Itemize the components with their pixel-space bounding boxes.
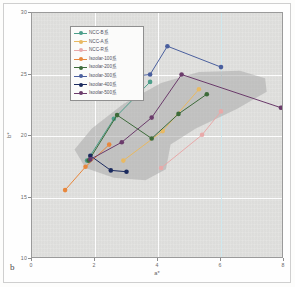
data-point — [148, 80, 153, 85]
legend-item[interactable]: Isoolar-300系 — [73, 72, 141, 81]
x-tick-label: 2 — [92, 262, 95, 268]
data-point — [149, 136, 154, 141]
legend-item-label: Isoolar-300系 — [89, 74, 117, 79]
x-tick-mark — [31, 258, 32, 261]
x-tick-label: 8 — [281, 262, 284, 268]
y-tick-label: 10 — [21, 255, 27, 261]
legend-marker-icon — [79, 57, 83, 61]
legend-marker-icon — [79, 83, 83, 87]
x-tick-label: 0 — [29, 262, 32, 268]
legend-item[interactable]: NCC-R系 — [73, 46, 141, 55]
x-tick-mark — [220, 258, 221, 261]
y-tick-mark — [28, 12, 31, 13]
data-point — [200, 133, 205, 138]
legend-marker-icon — [79, 74, 83, 78]
legend-item[interactable]: Isoolar-500系 — [73, 89, 141, 98]
legend-item-label: NCC-B系 — [89, 31, 109, 36]
y-tick-mark — [28, 135, 31, 136]
data-point — [197, 87, 202, 92]
plot-area — [31, 12, 283, 258]
x-tick-mark — [94, 258, 95, 261]
series-line — [161, 111, 221, 168]
y-tick-label: 20 — [21, 132, 27, 138]
legend-swatch — [74, 56, 87, 63]
legend-marker-icon — [79, 66, 83, 70]
legend: NCC-B系NCC-A系NCC-R系Isoolar-100系Isoolar-20… — [70, 26, 144, 101]
legend-swatch — [74, 30, 87, 37]
legend-marker-icon — [79, 91, 83, 95]
data-point — [165, 44, 170, 49]
legend-item-label: NCC-R系 — [89, 48, 109, 53]
legend-item-label: Isoolar-400系 — [89, 83, 117, 88]
legend-item[interactable]: Isoolar-200系 — [73, 63, 141, 72]
series-NCC-R系 — [159, 109, 224, 170]
legend-item-label: NCC-A系 — [89, 40, 109, 45]
data-point — [176, 112, 181, 117]
data-point — [124, 169, 129, 174]
data-point — [149, 115, 154, 120]
plot-wrapper: 3025201510 02468 b* a* NCC-B系NCC-A系NCC-R… — [31, 12, 283, 258]
legend-swatch — [74, 38, 87, 45]
legend-marker-icon — [79, 31, 83, 35]
y-tick-mark — [28, 197, 31, 198]
data-point — [115, 113, 120, 118]
x-axis-label: a* — [154, 270, 159, 276]
data-point — [219, 65, 224, 70]
legend-item[interactable]: Isoolar-400系 — [73, 81, 141, 90]
series-line — [90, 156, 126, 172]
x-tick-label: 6 — [218, 262, 221, 268]
legend-swatch — [74, 90, 87, 97]
x-tick-mark — [283, 258, 284, 261]
data-point — [159, 166, 164, 171]
figure-container: b 3025201510 02468 b* a* NCC-B系NCC-A系NCC… — [0, 0, 295, 287]
y-tick-mark — [28, 74, 31, 75]
legend-item-label: Isoolar-100系 — [89, 57, 117, 62]
data-point — [107, 142, 112, 147]
legend-swatch — [74, 64, 87, 71]
legend-item[interactable]: Isoolar-100系 — [73, 55, 141, 64]
legend-marker-icon — [79, 48, 83, 52]
panel-label: b — [10, 262, 15, 272]
y-tick-label: 30 — [21, 9, 27, 15]
data-point — [109, 168, 114, 173]
y-tick-label: 25 — [21, 71, 27, 77]
data-point — [179, 72, 184, 77]
legend-swatch — [74, 47, 87, 54]
data-point — [120, 140, 125, 145]
legend-swatch — [74, 73, 87, 80]
series-Isoolar-100系 — [63, 142, 112, 192]
data-point — [83, 165, 88, 170]
data-point — [148, 72, 153, 77]
series-Isoolar-200系 — [86, 92, 209, 163]
data-point — [219, 109, 224, 114]
data-point — [63, 188, 68, 193]
data-point — [88, 157, 93, 162]
y-tick-label: 15 — [21, 194, 27, 200]
legend-item-label: Isoolar-500系 — [89, 91, 117, 96]
legend-item[interactable]: NCC-B系 — [73, 29, 141, 38]
data-point — [279, 105, 283, 110]
legend-item[interactable]: NCC-A系 — [73, 38, 141, 47]
series-Isoolar-400系 — [88, 153, 129, 174]
legend-marker-icon — [79, 40, 83, 44]
x-tick-label: 4 — [155, 262, 158, 268]
legend-item-label: Isoolar-200系 — [89, 65, 117, 70]
data-point — [205, 92, 210, 97]
data-point — [121, 158, 126, 163]
y-axis-label: b* — [6, 132, 12, 137]
legend-swatch — [74, 81, 87, 88]
x-tick-mark — [157, 258, 158, 261]
